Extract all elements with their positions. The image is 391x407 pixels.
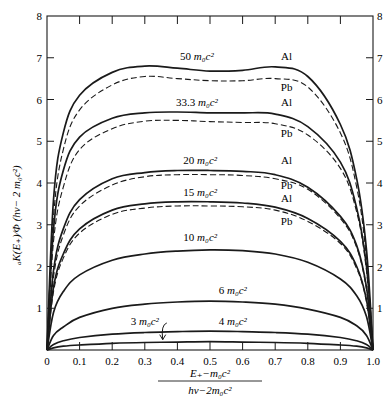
y-tick-label-right: 8 xyxy=(377,10,383,22)
x-tick-label: 0.5 xyxy=(203,355,217,367)
curve-labels: 50 m₀c²AlPb33.3 m₀c²AlPb20 m₀c²AlPb15 m₀… xyxy=(131,50,293,340)
x-axis-label: E₊−m₀c² hν−2m₀c² xyxy=(158,367,262,396)
x-tick-label: 0.2 xyxy=(105,355,119,367)
curve-label: Al xyxy=(281,192,292,204)
y-tick-label-right: 2 xyxy=(377,261,383,273)
x-tick-label: 0.1 xyxy=(73,355,87,367)
x-tick-label: 0.6 xyxy=(236,355,250,367)
curve-label: 20 m₀c² xyxy=(183,154,217,166)
x-tick-label: 0.8 xyxy=(301,355,315,367)
curve-label: 50 m₀c² xyxy=(180,50,214,62)
x-axis-label-numerator: E₊−m₀c² xyxy=(189,367,231,379)
curve-label: Al xyxy=(281,96,292,108)
curve-label: 3 m₀c² xyxy=(131,315,160,327)
y-tick-label-left: 8 xyxy=(37,10,43,22)
x-tick-label: 0.4 xyxy=(171,355,185,367)
x-axis-label-denominator: hν−2m₀c² xyxy=(188,384,232,396)
y-tick-label-left: 4 xyxy=(37,177,43,189)
curve-label: Al xyxy=(281,50,292,62)
y-axis-label-text: ₐK(E₊)⁄Φ (hν− 2 m₀c²) xyxy=(10,165,23,266)
y-tick-label-left: 6 xyxy=(37,94,43,106)
y-tick-label-right: 1 xyxy=(377,302,383,314)
y-tick-label-left: 3 xyxy=(37,219,43,231)
y-tick-label-right: 7 xyxy=(377,52,383,64)
y-axis-label: ₐK(E₊)⁄Φ (hν− 2 m₀c²) xyxy=(10,165,23,266)
x-tick-label: 0.7 xyxy=(268,355,282,367)
curve-label: 10 m₀c² xyxy=(183,231,217,243)
curve-50-m0c-al xyxy=(47,66,373,350)
y-tick-label-right: 6 xyxy=(377,94,383,106)
x-tick-label: 0 xyxy=(44,355,50,367)
curve-label: 4 m₀c² xyxy=(219,315,248,327)
plot-frame xyxy=(47,16,373,350)
plot-border xyxy=(47,16,373,350)
curve-20-m0c-pb xyxy=(47,174,373,350)
x-tick-label: 1.0 xyxy=(366,355,380,367)
y-tick-label-left: 2 xyxy=(37,261,43,273)
y-tick-label-right: 3 xyxy=(377,219,383,231)
curve-label: 15 m₀c² xyxy=(183,186,217,198)
curve-label: Pb xyxy=(281,179,293,191)
x-tick-label: 0.9 xyxy=(334,355,348,367)
x-tick-label: 0.3 xyxy=(138,355,152,367)
pair-production-energy-distribution-chart: 00.10.20.30.40.50.60.70.80.91.0 12345678… xyxy=(0,0,391,407)
y-tick-label-left: 5 xyxy=(37,135,43,147)
curves xyxy=(47,66,373,350)
y-tick-label-right: 4 xyxy=(377,177,383,189)
curve-label: Pb xyxy=(281,81,293,93)
curve-label: 33.3 m₀c² xyxy=(176,96,219,108)
y-tick-label-left: 7 xyxy=(37,52,43,64)
curve-50-m0c-pb xyxy=(47,76,373,350)
curve-label: Al xyxy=(281,154,292,166)
curve-15-m0c-al xyxy=(47,202,373,350)
y-tick-label-right: 5 xyxy=(377,135,383,147)
curve-label: 6 m₀c² xyxy=(219,284,248,296)
curve-label: Pb xyxy=(281,215,293,227)
curve-label: Pb xyxy=(281,127,293,139)
y-tick-label-left: 1 xyxy=(37,302,43,314)
